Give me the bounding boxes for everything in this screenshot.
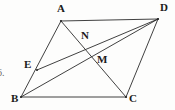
point-label-a: A	[57, 3, 65, 14]
point-label-e: E	[24, 59, 31, 70]
point-label-c: C	[129, 93, 137, 104]
point-label-n: N	[81, 30, 89, 41]
segment-layer	[21, 19, 158, 97]
vertex-dot-c	[125, 96, 127, 98]
point-label-b: B	[11, 93, 18, 104]
vertex-dot-d	[157, 18, 159, 20]
point-label-d: D	[160, 2, 168, 13]
side-AD	[61, 19, 158, 21]
vertex-dot-b	[20, 96, 22, 98]
cropped-margin-text: 6.	[0, 68, 5, 78]
geometry-figure: A B C D E M N 6.	[0, 0, 175, 110]
figure-canvas	[0, 0, 175, 110]
diagonal-AC	[61, 21, 126, 97]
vertex-dot-e	[36, 69, 38, 71]
vertex-dot-a	[60, 20, 62, 22]
point-label-m: M	[97, 54, 107, 65]
